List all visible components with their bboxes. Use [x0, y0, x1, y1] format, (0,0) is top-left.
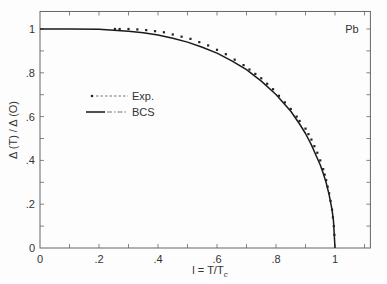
exp-data-point [333, 234, 335, 236]
exp-data-point [266, 83, 268, 85]
exp-data-point [136, 28, 138, 30]
exp-data-point [216, 49, 218, 51]
exp-data-point [260, 77, 262, 79]
exp-data-point [299, 120, 301, 122]
series-bcs-line [40, 29, 335, 248]
exp-data-point [248, 68, 250, 70]
exp-data-point [172, 33, 174, 35]
legend-label-bcs: BCS [132, 106, 155, 118]
x-tick-label: 1 [332, 253, 338, 265]
plot-frame [40, 11, 370, 248]
exp-data-point [331, 209, 333, 211]
exp-data-point [242, 64, 244, 66]
legend-item-bcs: BCS [86, 106, 155, 118]
legend-item-exp: Exp. [91, 90, 154, 102]
exp-data-point [207, 44, 209, 46]
tick-labels: 0.2.4.6.810.2.4.6.81 [26, 23, 338, 265]
x-tick-label: 0 [37, 253, 43, 265]
exp-data-point [296, 116, 298, 118]
exp-data-point [322, 168, 324, 170]
y-tick-label: 0 [29, 242, 35, 254]
exp-data-point [304, 128, 306, 130]
exp-data-point [290, 108, 292, 110]
exp-data-point [163, 31, 165, 33]
exp-data-point [225, 53, 227, 55]
exp-data-point [234, 59, 236, 61]
exp-data-point [181, 36, 183, 38]
exp-data-point [325, 179, 327, 181]
chart: 0.2.4.6.810.2.4.6.81 Pb Exp. BCS l = T/T… [0, 0, 387, 284]
exp-data-point [332, 216, 334, 218]
exp-data-point [127, 28, 129, 30]
exp-data-point [327, 186, 329, 188]
plot-axes [40, 11, 370, 248]
exp-data-point [145, 29, 147, 31]
exp-data-point [333, 225, 335, 227]
axis-ticks [40, 11, 370, 248]
exp-data-point [254, 73, 256, 75]
exp-data-point [154, 30, 156, 32]
legend-label-exp: Exp. [132, 90, 154, 102]
exp-data-point [319, 159, 321, 161]
legend-marker-dot-icon [91, 95, 94, 98]
y-axis-label: Δ (T) / Δ (O) [7, 101, 19, 159]
legend: Exp. BCS [86, 90, 155, 118]
exp-data-point [328, 192, 330, 194]
exp-data-point [307, 133, 309, 135]
y-tick-label: .8 [26, 67, 35, 79]
exp-data-point [114, 28, 116, 30]
exp-data-point [310, 138, 312, 140]
exp-data-point [313, 145, 315, 147]
x-tick-label: .2 [94, 253, 103, 265]
exp-data-point [284, 101, 286, 103]
element-annotation: Pb [345, 23, 358, 35]
x-axis-label: l = T/Tc [192, 264, 227, 279]
bcs-curve [40, 29, 335, 248]
y-tick-label: .4 [26, 154, 35, 166]
exp-data-point [119, 28, 121, 30]
exp-data-point [272, 88, 274, 90]
exp-data-point [329, 200, 331, 202]
exp-data-point [316, 152, 318, 154]
x-tick-label: .8 [271, 253, 280, 265]
y-tick-label: .6 [26, 111, 35, 123]
exp-data-point [189, 38, 191, 40]
exp-data-point [324, 174, 326, 176]
exp-data-point [198, 41, 200, 43]
exp-data-point [278, 95, 280, 97]
x-tick-label: .4 [153, 253, 162, 265]
series-exp-dots [114, 28, 336, 236]
y-tick-label: 1 [29, 23, 35, 35]
y-tick-label: .2 [26, 198, 35, 210]
